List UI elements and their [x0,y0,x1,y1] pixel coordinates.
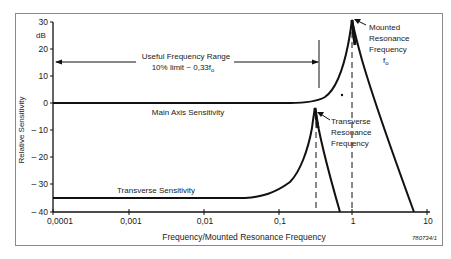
x-tick-0.01: 0,01 [197,216,214,226]
y-tick-10: 10 [39,71,49,81]
transverse-arrow-icon [317,112,324,117]
svg-text:Frequency: Frequency [331,139,369,148]
svg-text:Resonance: Resonance [369,34,410,43]
x-tick-labels: 0,0001 0,001 0,01 0,1 1 10 [47,216,433,226]
db-unit-label: dB [36,31,46,40]
arrow-left-head-icon [55,60,62,65]
y-tick-m30: – 30 [31,179,48,189]
y-tick-labels: 30 20 10 0 – 10 – 20 – 30 – 40 [31,17,48,217]
x-tick-0.1: 0,1 [274,216,286,226]
figure-id: 780734/1 [412,235,437,241]
svg-text:Frequency: Frequency [369,45,407,54]
x-tick-1: 1 [351,216,356,226]
useful-range-title: Useful Frequency Range [142,52,231,61]
x-tick-0.001: 0,001 [120,216,142,226]
svg-text:Resonance: Resonance [331,128,372,137]
y-axis-title: Relative Sensitivity [17,96,26,163]
y-tick-20: 20 [39,44,49,54]
svg-text:Transverse: Transverse [331,117,371,126]
y-tick-30: 30 [39,17,49,27]
y-tick-m40: – 40 [31,207,48,217]
useful-range-limit: 10% limit ~ 0,33fo [152,63,215,73]
svg-text:Mounted: Mounted [369,23,400,32]
x-tick-0.0001: 0,0001 [47,216,73,226]
main-axis-curve [53,20,414,212]
svg-text:fo: fo [383,56,389,66]
frequency-response-chart: 30 20 10 0 – 10 – 20 – 30 – 40 dB Relati… [0,0,451,259]
y-tick-m10: – 10 [31,125,48,135]
dot-marker [341,94,343,96]
x-tick-10: 10 [423,216,433,226]
arrow-right-head-icon [312,60,319,65]
y-tick-m20: – 20 [31,152,48,162]
y-tick-0: 0 [43,98,48,108]
transverse-resonance-label: Transverse Resonance Frequency [331,117,372,148]
transverse-sensitivity-label: Transverse Sensitivity [117,186,195,195]
x-axis-title: Frequency/Mounted Resonance Frequency [162,232,326,242]
mounted-resonance-label: Mounted Resonance Frequency fo [369,23,410,66]
transverse-curve [53,108,340,212]
main-axis-label: Main Axis Sensitivity [152,108,224,117]
